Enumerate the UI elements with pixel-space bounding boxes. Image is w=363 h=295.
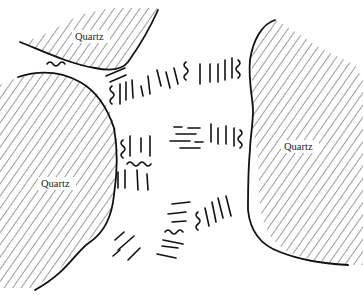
- tick-mark: [212, 202, 216, 222]
- label-quartz-left: Quartz: [41, 178, 70, 189]
- dash-mark: [115, 232, 124, 240]
- tick-mark: [174, 68, 178, 84]
- tick-mark: [132, 80, 133, 98]
- tick-mark: [157, 70, 161, 86]
- tick-mark: [205, 208, 209, 226]
- dash-mark: [172, 221, 186, 222]
- tick-mark: [166, 72, 170, 88]
- tick-mark: [147, 174, 148, 190]
- dash-mark: [110, 75, 126, 82]
- wavy-mark: [47, 62, 65, 66]
- wavy-mark: [110, 86, 114, 104]
- dash-mark: [157, 254, 176, 258]
- dash-mark: [118, 236, 134, 250]
- wavy-mark: [238, 130, 242, 148]
- dash-mark: [128, 248, 140, 260]
- tick-mark: [218, 198, 223, 218]
- wavy-mark: [165, 230, 183, 234]
- diagram-canvas: Quartz Quartz Quartz: [0, 0, 363, 295]
- quartz-grain-right: Quartz: [248, 20, 363, 265]
- dash-mark: [168, 212, 186, 214]
- wavy-mark: [184, 62, 188, 80]
- label-quartz-top: Quartz: [75, 31, 104, 42]
- label-quartz-right: Quartz: [284, 141, 313, 152]
- dash-mark: [172, 202, 190, 204]
- thin-section-diagram: Quartz Quartz Quartz: [0, 0, 363, 295]
- wavy-mark: [127, 162, 151, 166]
- dash-mark: [113, 250, 120, 256]
- tick-mark: [148, 76, 150, 94]
- tick-mark: [226, 196, 231, 216]
- tick-mark: [137, 170, 138, 190]
- quartz-grain-left: Quartz: [0, 73, 118, 290]
- quartz-grain-top: Quartz: [20, 8, 158, 70]
- wavy-mark: [236, 60, 240, 78]
- dash-mark: [162, 246, 178, 248]
- wavy-mark: [121, 140, 125, 158]
- tick-mark: [141, 86, 143, 96]
- wavy-mark: [196, 212, 200, 230]
- dash-mark: [163, 240, 183, 244]
